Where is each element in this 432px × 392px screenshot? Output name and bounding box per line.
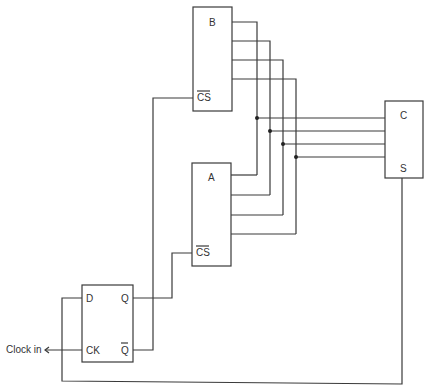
clock-in-label: Clock in [6, 344, 42, 355]
unit-c-s-label: S [400, 163, 407, 174]
circuit-diagram: B CS A CS C S D Q CK Q Clock in [0, 0, 432, 392]
ff-d-label: D [86, 293, 93, 304]
junction-dot [281, 142, 285, 146]
junction-dot [268, 129, 272, 133]
junction-dot [294, 155, 298, 159]
junction-dot [255, 116, 259, 120]
ff-ck-label: CK [86, 345, 100, 356]
bus-b-line-0 [232, 22, 257, 175]
memory-a-label: A [208, 172, 215, 183]
memory-b-label: B [209, 17, 216, 28]
ff-q-label: Q [121, 293, 129, 304]
ff-qbar-label: Q [121, 345, 129, 356]
memory-a-cs-label: CS [196, 247, 210, 258]
bus-b-line-3 [232, 79, 296, 234]
wire-q-to-a-cs [133, 253, 192, 298]
unit-c-label: C [400, 110, 407, 121]
memory-b-cs-label: CS [197, 92, 211, 103]
wire-qbar-to-b-cs [133, 98, 193, 350]
